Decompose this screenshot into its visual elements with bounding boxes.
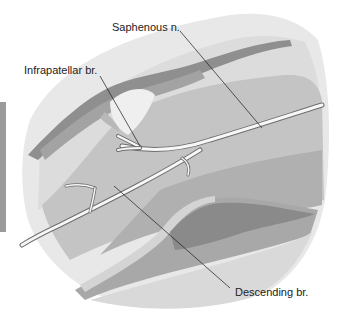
- leg-illustration: [0, 0, 342, 315]
- label-infrapatellar-branch: Infrapatellar br.: [24, 64, 97, 76]
- label-descending-branch: Descending br.: [235, 286, 308, 298]
- anatomy-figure: Saphenous n. Infrapatellar br. Descendin…: [0, 0, 342, 315]
- label-saphenous-nerve: Saphenous n.: [112, 21, 180, 33]
